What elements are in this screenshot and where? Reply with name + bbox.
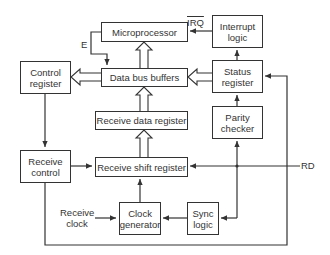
receive-control-label-1: Receive bbox=[28, 156, 62, 167]
receive-control-block: Receivecontrol bbox=[20, 150, 71, 183]
receive-shift-register-label: Receive shift register bbox=[97, 162, 186, 173]
status-register-block: Statusregister bbox=[212, 60, 263, 93]
receive-control-label-2: control bbox=[31, 167, 60, 178]
receive-data-register-block: Receive data register bbox=[95, 111, 188, 130]
sync-logic-label-2: logic bbox=[193, 219, 213, 230]
control-register-label-1: Control bbox=[30, 67, 61, 78]
rd-signal-label: RD bbox=[301, 160, 315, 171]
irq-signal-label: IRQ bbox=[187, 17, 204, 28]
status-register-label-1: Status bbox=[224, 66, 251, 77]
interrupt-logic-label-2: logic bbox=[228, 32, 248, 43]
receive-clock-label: Receiveclock bbox=[60, 207, 94, 229]
receive-data-register-label: Receive data register bbox=[97, 115, 187, 126]
sync-logic-block: Synclogic bbox=[187, 202, 219, 235]
receive-shift-register-block: Receive shift register bbox=[95, 157, 188, 177]
parity-checker-block: Paritychecker bbox=[212, 106, 263, 139]
data-bus-buffers-label: Data bus buffers bbox=[110, 72, 180, 83]
control-register-block: Controlregister bbox=[20, 61, 71, 94]
interrupt-logic-label-1: Interrupt bbox=[220, 21, 255, 32]
microprocessor-label: Microprocessor bbox=[112, 27, 177, 38]
clock-generator-label-1: Clock bbox=[128, 208, 152, 219]
status-register-label-2: register bbox=[222, 77, 254, 88]
sync-logic-label-1: Sync bbox=[192, 208, 213, 219]
clock-generator-block: Clockgenerator bbox=[119, 202, 161, 235]
microprocessor-block: Microprocessor bbox=[101, 22, 188, 42]
interrupt-logic-block: Interruptlogic bbox=[212, 15, 263, 48]
parity-checker-label-2: checker bbox=[221, 123, 254, 134]
e-signal-label: E bbox=[81, 39, 87, 50]
receive-clock-label-1: Receive bbox=[60, 207, 94, 218]
data-bus-buffers-block: Data bus buffers bbox=[101, 68, 188, 87]
control-register-label-2: register bbox=[30, 78, 62, 89]
parity-checker-label-1: Parity bbox=[225, 112, 249, 123]
clock-generator-label-2: generator bbox=[120, 219, 161, 230]
receive-clock-label-2: clock bbox=[66, 218, 88, 229]
